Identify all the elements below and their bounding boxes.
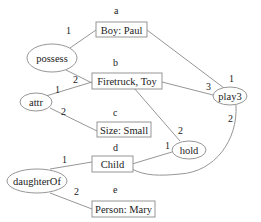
arg-label: 2	[178, 125, 183, 136]
relation-text: daughterOf	[13, 176, 61, 187]
edge-attr-b	[46, 82, 92, 96]
arg-label: 2	[228, 113, 233, 124]
arg-label: 1	[55, 84, 60, 95]
edge-daughterOf-d	[50, 162, 92, 169]
edge-play3-d	[132, 105, 236, 175]
arg-label: 2	[74, 186, 79, 197]
relation-attr: attr	[20, 93, 52, 111]
arg-label: 3	[206, 81, 211, 92]
edge-possess-b	[66, 70, 92, 83]
arg-label: 2	[61, 106, 66, 117]
concept-text: Person: Mary	[95, 204, 153, 215]
concept-a: a Boy: Paul	[96, 5, 147, 37]
arg-label: 1	[66, 25, 71, 36]
relation-text: possess	[36, 53, 68, 64]
arg-label: 1	[62, 154, 67, 165]
concept-text: Boy: Paul	[101, 25, 143, 36]
concept-label: d	[113, 142, 118, 153]
concept-text: Child	[101, 159, 125, 170]
relation-possess: possess	[27, 44, 77, 72]
arg-label: 1	[229, 73, 234, 84]
concept-label: b	[113, 57, 118, 68]
concept-label: e	[113, 184, 118, 195]
edge-attr-c	[50, 108, 97, 131]
concept-label: a	[114, 5, 119, 16]
relation-text: attr	[29, 97, 43, 108]
concept-c: c Size: Small	[97, 107, 151, 137]
edge-possess-a	[70, 30, 96, 48]
concept-e: e Person: Mary	[92, 184, 155, 217]
relation-play3: play3	[213, 87, 247, 105]
concept-label: c	[113, 107, 118, 118]
conceptual-graph: 1 2 1 2 1 3 2 2 1 1 2 a Boy: Paul b Fire…	[0, 0, 261, 222]
edge-daughterOf-e	[50, 193, 92, 209]
concept-text: Size: Small	[100, 125, 148, 136]
arg-label: 1	[165, 140, 170, 151]
edge-hold-d	[132, 152, 172, 164]
relation-hold: hold	[172, 141, 206, 159]
relation-daughterOf: daughterOf	[7, 169, 67, 193]
relation-text: hold	[180, 145, 199, 156]
concept-d: d Child	[92, 142, 133, 172]
arg-label: 2	[73, 74, 78, 85]
concept-b: b Firetruck, Toy	[92, 57, 162, 89]
relation-text: play3	[218, 91, 241, 102]
concept-text: Firetruck, Toy	[97, 76, 157, 87]
